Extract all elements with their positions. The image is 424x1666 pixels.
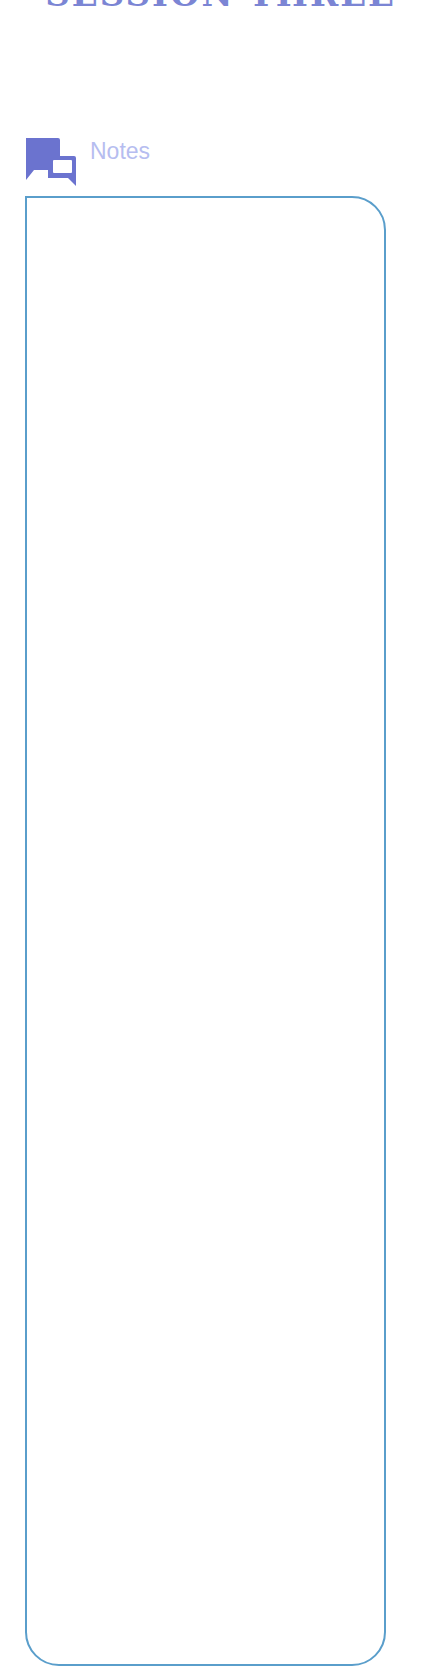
notes-textarea[interactable] — [25, 196, 386, 1666]
notes-header: Notes — [24, 138, 150, 188]
chat-bubbles-icon — [24, 138, 80, 188]
notes-label: Notes — [90, 138, 150, 164]
session-title: SESSION THREE — [0, 0, 424, 14]
